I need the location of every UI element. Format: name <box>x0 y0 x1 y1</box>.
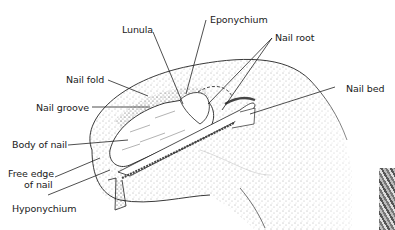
nail-anatomy-illustration <box>0 0 395 230</box>
label-lunula: Lunula <box>122 24 153 35</box>
label-hyponychium: Hyponychium <box>12 203 76 214</box>
label-nail-fold: Nail fold <box>66 74 104 85</box>
label-nail-groove: Nail groove <box>36 102 89 113</box>
label-eponychium: Eponychium <box>210 14 268 25</box>
adjacent-photo-edge <box>379 168 395 230</box>
label-free-edge-line1: Free edge <box>8 168 54 179</box>
label-body-of-nail: Body of nail <box>12 139 67 150</box>
label-nail-root: Nail root <box>275 32 314 43</box>
label-free-edge-line2: of nail <box>24 179 53 190</box>
label-nail-bed: Nail bed <box>346 83 384 94</box>
